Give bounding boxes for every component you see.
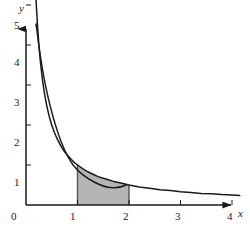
plot-svg (0, 0, 250, 234)
y-tick-label-1: 1 (14, 177, 20, 188)
y-tick-label-3: 3 (14, 97, 20, 108)
curve-upper-branch (36, 0, 77, 165)
figure-container: y x 5 4 3 2 1 0 1 2 3 4 (0, 0, 250, 234)
x-tick-label-0: 0 (11, 211, 17, 222)
x-tick-label-1: 1 (70, 211, 76, 222)
x-tick-label-2: 2 (123, 211, 129, 222)
x-tick-label-3: 3 (175, 211, 181, 222)
y-tick-label-2: 2 (14, 137, 20, 148)
y-tick-label-5: 5 (14, 20, 20, 31)
x-tick-label-4: 4 (227, 211, 233, 222)
x-axis-label: x (238, 208, 243, 219)
curve-one-over-x (36, 24, 126, 188)
y-axis-label: y (19, 3, 24, 14)
y-tick-label-4: 4 (14, 57, 20, 68)
